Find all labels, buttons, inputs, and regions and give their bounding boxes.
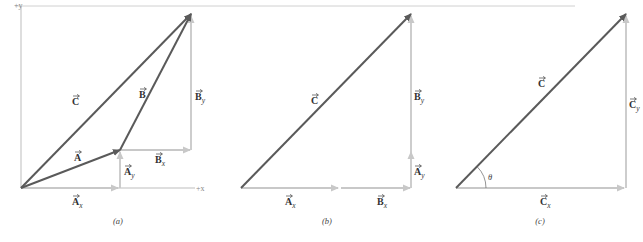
vector-c <box>456 14 626 188</box>
y-axis-label: +y <box>14 1 23 10</box>
vector-label-c: C <box>72 96 79 107</box>
vector-label-b: B <box>139 89 146 100</box>
vector-b <box>120 14 191 150</box>
panel-caption-c: (c) <box>535 216 545 226</box>
panel-caption-a: (a) <box>113 216 123 226</box>
panel-b: CAxBxAyBy(b) <box>241 14 425 226</box>
panel-c: CCxCyθ(c) <box>456 14 640 226</box>
vector-label-cy: Cy <box>629 99 640 113</box>
vector-label-a: A <box>74 152 82 163</box>
vector-label-bx: Bx <box>377 196 388 210</box>
angle-theta-label: θ <box>488 172 492 182</box>
vector-label-by: By <box>195 91 206 105</box>
vector-label-cx: Cx <box>540 196 551 210</box>
vector-label-bx: Bx <box>155 154 166 168</box>
vector-label-c: C <box>538 78 545 89</box>
vector-label-ax: Ax <box>285 196 296 210</box>
vector-c <box>241 14 411 188</box>
panel-caption-b: (b) <box>322 216 332 226</box>
vector-label-by: By <box>414 91 425 105</box>
x-axis-label: +x <box>196 184 205 193</box>
vector-label-ay: Ay <box>124 166 135 180</box>
panel-a: +x+yCABAxAyBxBy(a) <box>14 1 206 226</box>
angle-arc <box>477 167 486 188</box>
vector-addition-figure: +x+yCABAxAyBxBy(a) CAxBxAyBy(b) CCxCyθ(c… <box>0 0 643 242</box>
vector-label-c: C <box>311 95 318 106</box>
vector-label-ax: Ax <box>72 196 83 210</box>
vector-a <box>21 150 120 188</box>
vector-label-ay: Ay <box>414 166 425 180</box>
vector-c <box>21 14 191 188</box>
